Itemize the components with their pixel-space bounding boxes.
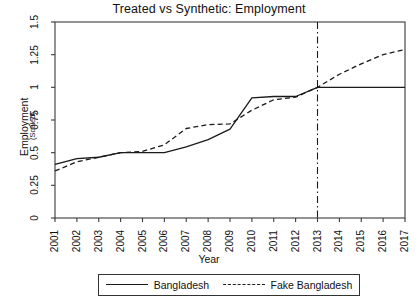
series-line-bangladesh	[55, 87, 405, 164]
legend-swatch-solid-line-icon	[106, 284, 148, 286]
data-series-group	[55, 49, 405, 171]
legend-entry[interactable]: Bangladesh	[106, 279, 209, 291]
plot-frame	[55, 22, 405, 218]
x-axis-label: Year	[0, 253, 418, 265]
axis-tick-marks	[51, 22, 405, 222]
legend-swatch-dashed-line-icon	[223, 284, 265, 286]
series-line-fake-bangladesh	[55, 49, 405, 171]
legend-label: Bangladesh	[154, 279, 209, 291]
chart-legend: BangladeshFake Bangladesh	[98, 274, 360, 296]
legend-entry[interactable]: Fake Bangladesh	[223, 279, 353, 291]
chart-figure: Treated vs Synthetic: Employment Employm…	[0, 0, 418, 304]
legend-label: Fake Bangladesh	[271, 279, 353, 291]
